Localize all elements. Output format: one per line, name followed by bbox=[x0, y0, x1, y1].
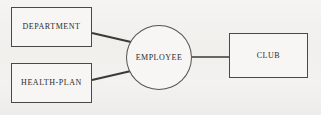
entity-department: DEPARTMENT bbox=[11, 7, 92, 47]
entity-health-plan: HEALTH-PLAN bbox=[11, 63, 92, 103]
entity-club: CLUB bbox=[229, 33, 308, 78]
er-diagram-canvas: DEPARTMENT HEALTH-PLAN EMPLOYEE CLUB bbox=[0, 0, 321, 115]
connector-health-plan-employee bbox=[92, 71, 131, 80]
entity-health-plan-label: HEALTH-PLAN bbox=[21, 79, 82, 87]
entity-department-label: DEPARTMENT bbox=[22, 23, 80, 31]
relationship-employee-label: EMPLOYEE bbox=[136, 54, 183, 62]
relationship-employee: EMPLOYEE bbox=[126, 25, 192, 90]
connector-department-employee bbox=[92, 33, 131, 42]
entity-club-label: CLUB bbox=[257, 52, 281, 60]
